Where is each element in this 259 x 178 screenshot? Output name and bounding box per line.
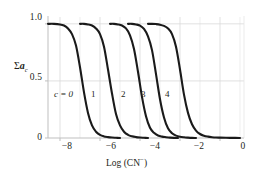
y-axis-title: Σac <box>14 60 28 73</box>
y-tick-label-1.0: 1.0 <box>16 12 42 22</box>
curve-annotation-c3: 3 <box>141 89 146 99</box>
curve-annotation-c0: c = 0 <box>54 89 73 99</box>
x-axis-title-text: Log (CN <box>106 158 140 168</box>
y-tick-label-0.5: 0.5 <box>16 72 42 82</box>
curve-annotation-c1: 1 <box>91 89 96 99</box>
x-tick-label-0: 0 <box>231 141 255 151</box>
x-tick-label--6: −6 <box>99 141 123 151</box>
chart-figure: 1.0 0.5 0 Σac −8 −6 −4 −2 0 Log (CN−) c … <box>0 0 259 178</box>
curve-annotation-c2: 2 <box>121 89 126 99</box>
y-tick-label-0: 0 <box>16 132 42 142</box>
x-axis-title: Log (CN−) <box>106 156 147 168</box>
x-tick-label--8: −8 <box>55 141 79 151</box>
x-tick-label--4: −4 <box>143 141 167 151</box>
x-tick-label--2: −2 <box>187 141 211 151</box>
curve-annotation-c4: 4 <box>165 89 170 99</box>
x-axis-title-paren: ) <box>144 158 147 168</box>
axes-frame <box>45 16 244 141</box>
y-axis-title-subscript: c <box>25 66 28 73</box>
plot-canvas <box>0 0 259 178</box>
